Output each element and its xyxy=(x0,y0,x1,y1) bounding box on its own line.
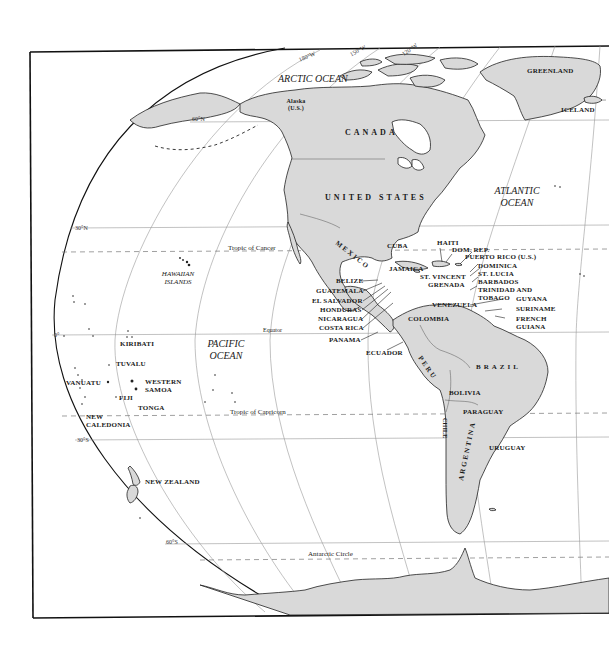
honduras-label: HONDURAS xyxy=(320,307,362,314)
kiribati-label: KIRIBATI xyxy=(120,341,154,348)
hawaiian-islands-label: HAWAIIAN ISLANDS xyxy=(155,271,201,286)
st-vincent-label: ST. VINCENT xyxy=(420,274,466,281)
vanuatu-label: VANUATU xyxy=(66,380,101,387)
united-states-label: UNITED STATES xyxy=(325,194,427,202)
french-guiana-line-2: GUIANA xyxy=(516,324,547,331)
siberia-landmass xyxy=(130,93,240,128)
st-lucia-label: ST. LUCIA xyxy=(478,271,514,278)
iceland-label: ICELAND xyxy=(561,107,595,114)
equator-label: Equator xyxy=(263,327,282,333)
aleutian-islands xyxy=(155,125,258,150)
new-zealand-label: NEW ZEALAND xyxy=(145,479,200,486)
alaska-line-2: (U.S.) xyxy=(284,105,308,111)
arctic-ocean-label: ARCTIC OCEAN xyxy=(278,74,348,84)
hawaiian-islands-line-1: HAWAIIAN xyxy=(155,271,201,278)
french-guiana-label: FRENCH GUIANA xyxy=(516,316,547,331)
trinidad-line-1: TRINIDAD AND xyxy=(478,287,532,294)
projection-boundary xyxy=(54,48,290,612)
nicaragua-label: NICARAGUA xyxy=(318,316,363,323)
chile-label: CHILE xyxy=(442,418,448,438)
pacific-ocean-line-1: PACIFIC xyxy=(198,339,254,349)
belize-label: BELIZE xyxy=(336,278,363,285)
pacific-ocean-line-2: OCEAN xyxy=(198,351,254,361)
iceland-landmass xyxy=(584,96,602,103)
atlantic-ocean-line-2: OCEAN xyxy=(487,198,547,208)
atlantic-ocean-line-1: ATLANTIC xyxy=(487,186,547,196)
parallel-label-30n: 30°N xyxy=(75,225,88,231)
hispaniola-landmass xyxy=(432,261,450,267)
tropic-of-cancer-label: Tropic of Cancer xyxy=(228,245,276,252)
canada-label: CANADA xyxy=(345,129,398,137)
pacific-ocean-label: PACIFIC OCEAN xyxy=(198,339,254,361)
dominica-label: DOMINICA xyxy=(478,263,517,270)
atlantic-ocean-label: ATLANTIC OCEAN xyxy=(487,186,547,208)
new-zealand-north xyxy=(128,466,140,485)
suriname-label: SURINAME xyxy=(516,306,556,313)
western-samoa-line-1: WESTERN xyxy=(145,379,181,386)
guatemala-label: GUATEMALA xyxy=(316,288,364,295)
parallel-label-30s: 30°S xyxy=(77,437,89,443)
new-caledonia-label: NEW CALEDONIA xyxy=(86,414,131,429)
ecuador-label: ECUADOR xyxy=(366,350,403,357)
venezuela-label: VENEZUELA xyxy=(432,302,477,309)
hawaiian-islands-line-2: ISLANDS xyxy=(155,279,201,286)
puerto-rico-label: PUERTO RICO (U.S.) xyxy=(465,254,536,261)
brazil-label: BRAZIL xyxy=(476,364,521,371)
antarctic-circle-label: Antarctic Circle xyxy=(308,551,353,558)
fiji-label: FIJI xyxy=(119,395,133,402)
grenada-label: GRENADA xyxy=(428,282,465,289)
parallel-label-60s: 60°S xyxy=(166,539,178,545)
tropic-of-capricorn-label: Tropic of Capricorn xyxy=(230,409,286,416)
new-caledonia-line-2: CALEDONIA xyxy=(86,422,131,429)
bolivia-label: BOLIVIA xyxy=(449,390,481,397)
barbados-label: BARBADOS xyxy=(478,279,519,286)
french-guiana-line-1: FRENCH xyxy=(516,316,547,323)
panama-label: PANAMA xyxy=(329,337,361,344)
colombia-label: COLOMBIA xyxy=(408,316,449,323)
costa-rica-label: COSTA RICA xyxy=(319,325,364,332)
paraguay-label: PARAGUAY xyxy=(463,409,504,416)
alaska-line-1: Alaska xyxy=(284,98,308,104)
uruguay-label: URUGUAY xyxy=(489,445,526,452)
parallel-label-0: 0° xyxy=(54,332,59,338)
new-zealand-south xyxy=(127,485,138,503)
south-america-landmass xyxy=(393,304,548,534)
tuvalu-label: TUVALU xyxy=(116,361,146,368)
alaska-label: Alaska (U.S.) xyxy=(284,98,308,111)
guyana-label: GUYANA xyxy=(516,296,547,303)
tonga-label: TONGA xyxy=(138,405,165,412)
western-samoa-line-2: SAMOA xyxy=(145,387,181,394)
western-samoa-label: WESTERN SAMOA xyxy=(145,379,181,394)
parallel-label-60n: 60°N xyxy=(192,116,205,122)
new-caledonia-line-1: NEW xyxy=(86,414,131,421)
cuba-label: CUBA xyxy=(387,243,408,250)
greenland-label: GREENLAND xyxy=(527,68,574,75)
el-salvador-label: EL SALVADOR xyxy=(312,298,363,305)
jamaica-label: JAMAICA xyxy=(389,266,423,273)
